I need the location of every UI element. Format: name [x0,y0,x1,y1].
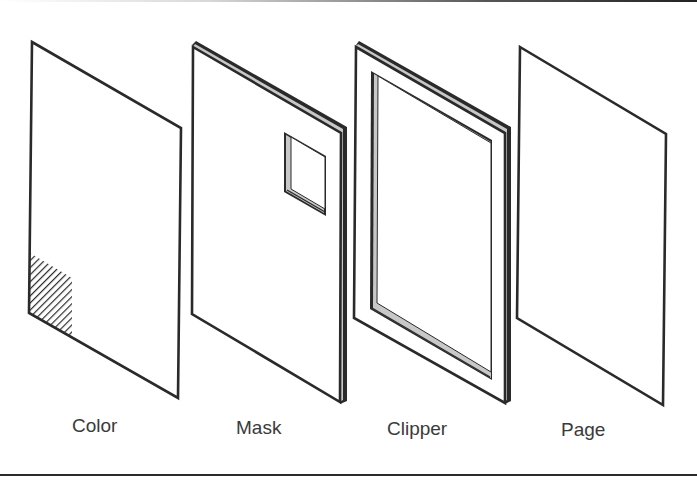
clipper-panel [354,41,511,404]
page-panel [517,47,666,405]
mask-panel [192,41,347,404]
label-mask: Mask [236,418,281,437]
label-page: Page [561,420,605,439]
label-color: Color [72,416,117,435]
bottom-rule [0,474,697,476]
label-clipper: Clipper [387,419,447,438]
color-panel [28,42,181,398]
layer-diagram [0,0,697,484]
